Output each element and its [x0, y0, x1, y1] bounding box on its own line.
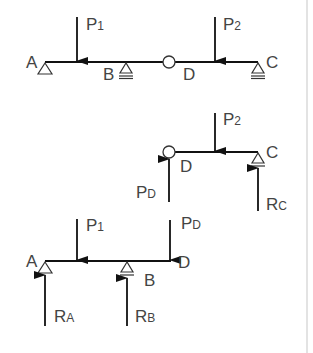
label-c: C [266, 143, 278, 162]
hinge-d-icon [163, 146, 175, 158]
label-p2: P2 [223, 110, 241, 129]
label-p2: P2 [223, 15, 241, 34]
label-b: B [144, 271, 155, 290]
label-a: A [26, 53, 38, 72]
label-p1: P1 [86, 15, 104, 34]
roller-support-b-icon [120, 63, 132, 73]
diagram-free-body-abd: A P1 PD D B RA RB [26, 214, 201, 326]
label-c: C [266, 53, 278, 72]
label-b: B [103, 65, 114, 84]
hinge-d-icon [163, 56, 175, 68]
label-rc: RC [266, 195, 287, 214]
label-d: D [183, 65, 195, 84]
label-d: D [178, 253, 190, 272]
roller-support-b-icon [121, 262, 133, 272]
diagram-free-body-dc: D P2 C RC PD [136, 110, 287, 214]
roller-support-c-icon [252, 153, 264, 163]
label-p1: P1 [86, 216, 104, 235]
label-a: A [26, 252, 38, 271]
beam-diagram: A P1 B D P2 C D P2 C RC [0, 0, 313, 353]
pin-support-a-icon [38, 262, 52, 273]
diagram-compound-beam: A P1 B D P2 C [26, 15, 278, 84]
label-pd: PD [136, 183, 156, 202]
label-pd: PD [181, 214, 201, 233]
roller-support-c-icon [252, 63, 264, 73]
label-ra: RA [54, 307, 74, 326]
pin-support-a-icon [38, 63, 52, 74]
label-d: D [180, 157, 192, 176]
label-rb: RB [135, 307, 155, 326]
